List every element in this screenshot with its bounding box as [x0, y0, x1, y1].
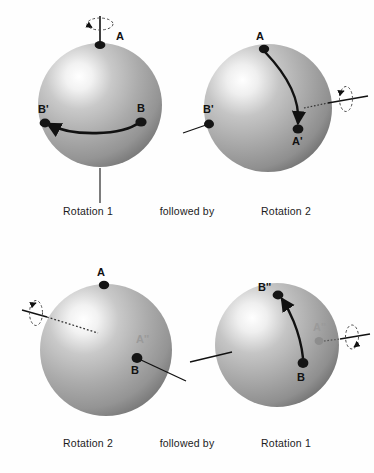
point-b-marker: [135, 117, 146, 126]
point-b-label: B: [131, 364, 139, 376]
point-a-marker: [99, 281, 109, 289]
caption-bottom-left-label: Rotation 2: [32, 437, 144, 449]
point-a-label: A: [256, 30, 264, 42]
sphere-body: [40, 284, 172, 416]
sphere-body: [204, 44, 332, 172]
panel-bottom-right: B B'' A'': [190, 281, 370, 407]
point-b-label: B: [297, 371, 305, 383]
sphere-body: [215, 283, 339, 407]
point-a-label: A: [116, 30, 124, 42]
panel-top-right: A A' B': [183, 30, 368, 172]
rotation-axis-visible-segment: [22, 310, 47, 317]
caption-bottom-row: Rotation 2 followed by Rotation 1: [0, 437, 374, 449]
caption-bottom-right-label: Rotation 1: [230, 437, 342, 449]
spin-direction-arrow: [88, 25, 92, 28]
rotation-axis-visible-segment: [340, 334, 370, 339]
point-aprime-label: A': [292, 135, 303, 147]
point-a-marker: [95, 41, 106, 49]
point-b-marker: [132, 353, 143, 363]
caption-top-connector: followed by: [144, 205, 230, 217]
caption-top-row: Rotation 1 followed by Rotation 2: [0, 205, 374, 217]
point-adoubleprime-label: A'': [313, 321, 327, 333]
caption-top-right-label: Rotation 2: [230, 205, 342, 217]
figure-canvas: A B B' A A' B': [0, 0, 374, 473]
point-bprime-marker: [204, 120, 214, 129]
point-adoubleprime-marker: [315, 337, 324, 345]
point-a-label: A: [97, 266, 105, 278]
point-aprime-marker: [293, 124, 304, 133]
spin-direction-arrow: [339, 91, 344, 93]
point-b-label: B: [137, 102, 145, 114]
point-b-marker: [298, 358, 309, 368]
point-bprime-label: B': [38, 103, 49, 115]
caption-bottom-connector: followed by: [144, 437, 230, 449]
rotation-diagram-svg: A B B' A A' B': [0, 0, 374, 473]
panel-top-left: A B B': [38, 16, 162, 203]
point-adoubleprime-label: A'': [136, 333, 150, 345]
point-bdoubleprime-label: B'': [258, 281, 272, 293]
point-bprime-marker: [40, 119, 51, 128]
caption-top-left-label: Rotation 1: [32, 205, 144, 217]
rotation-axis-visible-segment: [328, 96, 368, 103]
point-bprime-leader-line: [183, 125, 206, 133]
panel-bottom-left: A A'' B: [22, 266, 186, 416]
point-bdoubleprime-marker: [273, 291, 284, 300]
point-bprime-label: B': [203, 103, 214, 115]
